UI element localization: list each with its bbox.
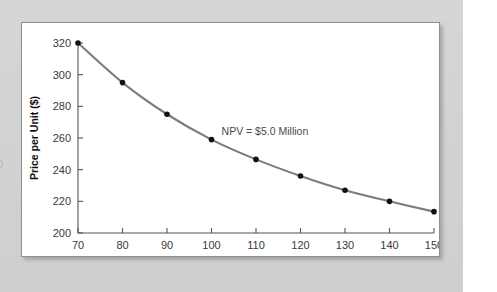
x-tick-label: 70: [72, 239, 84, 251]
y-tick-label: 300: [53, 69, 71, 81]
y-axis-ticks: [78, 43, 83, 233]
data-point-marker: [120, 80, 126, 86]
chart-axes: [78, 43, 434, 233]
data-point-marker: [431, 209, 437, 215]
chart-area: 708090100110120130140150 200220240260280…: [22, 23, 439, 256]
y-tick-label: 320: [53, 37, 71, 49]
x-tick-label: 90: [161, 239, 173, 251]
figure-panel: 708090100110120130140150 200220240260280…: [21, 22, 440, 257]
screenshot-root: 0 708090100110120130140150 2002202402602…: [0, 0, 497, 292]
npv-annotation: NPV = $5.0 Million: [222, 125, 309, 137]
y-axis-title: Price per Unit ($): [28, 96, 40, 180]
data-point-marker: [342, 187, 348, 193]
data-point-marker: [253, 157, 259, 163]
axis-spine: [78, 43, 434, 233]
data-point-marker: [164, 111, 170, 117]
y-tick-label: 220: [53, 195, 71, 207]
x-axis-ticks: [78, 228, 434, 233]
x-tick-label: 110: [247, 239, 265, 251]
data-point-marker: [209, 137, 215, 143]
y-tick-label: 200: [53, 227, 71, 239]
x-tick-label: 130: [336, 239, 354, 251]
data-point-marker: [298, 173, 304, 179]
x-tick-label: 80: [116, 239, 128, 251]
edge-bleed-glyph: 0: [0, 158, 2, 170]
x-tick-label: 120: [291, 239, 309, 251]
data-point-marker: [387, 199, 393, 205]
y-tick-label: 240: [53, 164, 71, 176]
x-axis-tick-labels: 708090100110120130140150: [72, 239, 439, 251]
y-axis-tick-labels: 200220240260280300320: [53, 37, 71, 239]
chart-annotations: NPV = $5.0 Million: [222, 125, 309, 137]
y-tick-label: 280: [53, 100, 71, 112]
price-vs-units-line-chart: 708090100110120130140150 200220240260280…: [22, 23, 439, 256]
data-point-marker: [75, 40, 81, 46]
x-tick-label: 140: [380, 239, 398, 251]
x-tick-label: 100: [202, 239, 220, 251]
x-tick-label: 150: [425, 239, 439, 251]
y-tick-label: 260: [53, 132, 71, 144]
